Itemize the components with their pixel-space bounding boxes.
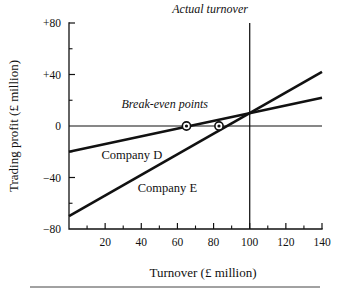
x-tick-label: 140 xyxy=(313,236,331,248)
x-tick-label: 80 xyxy=(208,236,220,248)
x-axis-title: Turnover (£ million) xyxy=(149,265,256,280)
x-tick-label: 120 xyxy=(277,236,295,248)
y-tick-label: −40 xyxy=(43,172,61,184)
y-tick-label: −80 xyxy=(43,223,61,235)
x-tick-label: 40 xyxy=(136,236,148,248)
y-tick-label: +40 xyxy=(43,69,61,81)
chart-figure: 20406080100120140+80+400−40−80 Company D… xyxy=(0,0,337,290)
x-tick-label: 20 xyxy=(99,236,111,248)
series-label-company-e: Company E xyxy=(138,181,198,195)
y-tick-label: +80 xyxy=(43,17,61,29)
annotation-break-even-points: Break-even points xyxy=(122,97,209,111)
x-tick-label: 100 xyxy=(241,236,259,248)
series-label-company-d: Company D xyxy=(102,148,163,162)
break-even-company-d-dot xyxy=(185,124,188,127)
y-tick-label: 0 xyxy=(55,120,61,132)
y-axis-title: Trading profit (£ million) xyxy=(6,60,21,192)
annotation-actual-turnover: Actual turnover xyxy=(171,2,248,16)
break-even-chart: 20406080100120140+80+400−40−80 Company D… xyxy=(0,0,337,290)
break-even-company-e-dot xyxy=(217,124,220,127)
x-tick-label: 60 xyxy=(172,236,184,248)
